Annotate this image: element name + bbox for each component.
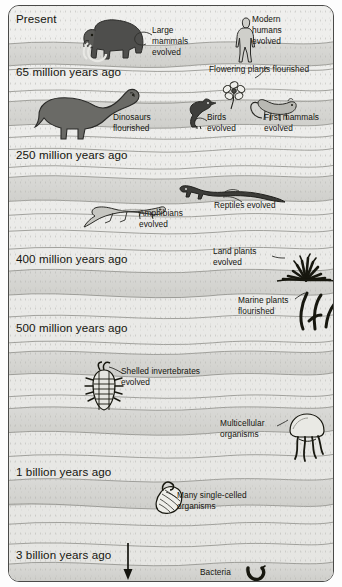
callout-bacteria: Bacteria bbox=[200, 567, 231, 578]
era-label-present: Present bbox=[16, 13, 57, 25]
era-label-400mya: 400 million years ago bbox=[16, 253, 128, 265]
callout-modern-humans: Modern humans evolved bbox=[252, 14, 282, 47]
rock-column bbox=[8, 5, 334, 582]
era-label-250mya: 250 million years ago bbox=[16, 149, 128, 161]
callout-large-mammals: Large mammals evolved bbox=[152, 25, 188, 58]
callout-multicellular: Multicellular organisms bbox=[220, 418, 264, 440]
era-label-500mya: 500 million years ago bbox=[16, 322, 128, 334]
callout-amphibians: Amphibians evolved bbox=[139, 208, 183, 230]
callout-flowering-plants: Flowering plants flourished bbox=[209, 64, 309, 75]
geologic-timeline-figure: Present 65 million years ago 250 million… bbox=[0, 0, 342, 587]
leader-lines bbox=[9, 6, 334, 582]
callout-land-plants: Land plants evolved bbox=[213, 246, 256, 268]
callout-shelled-inverts: Shelled invertebrates evolved bbox=[121, 366, 200, 388]
callout-birds: Birds evolved bbox=[207, 112, 236, 134]
era-label-65mya: 65 million years ago bbox=[16, 66, 121, 78]
time-direction-arrow bbox=[118, 542, 138, 582]
callout-marine-plants: Marine plants flourished bbox=[238, 295, 288, 317]
callout-reptiles: Reptiles evolved bbox=[214, 200, 276, 211]
callout-dinosaurs: Dinosaurs flourished bbox=[113, 112, 151, 134]
callout-single-celled: Many single-celled organisms bbox=[177, 490, 247, 512]
era-label-1bya: 1 billion years ago bbox=[16, 466, 111, 478]
era-label-3bya: 3 billion years ago bbox=[16, 549, 111, 561]
callout-first-mammals: First mammals evolved bbox=[264, 112, 319, 134]
